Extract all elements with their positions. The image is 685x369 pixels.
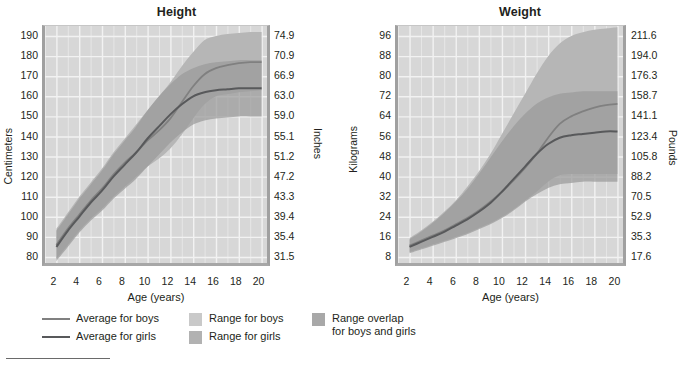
height-x-axis-title: Age (years)	[42, 291, 270, 303]
weight-data-series	[398, 26, 626, 266]
legend-swatch-range-boys-icon	[189, 313, 202, 326]
height-x-tick: 18	[224, 276, 248, 287]
height-y-axis-right-title: Inches	[312, 128, 324, 159]
weight-y-tick-left: 80	[351, 70, 391, 81]
weight-y-tick-right: 35.3	[631, 231, 675, 242]
height-plot-area	[42, 25, 270, 266]
height-y-tick-left: 160	[0, 90, 38, 101]
legend-label-range-overlap: Range overlap for boys and girls	[332, 312, 416, 338]
height-chart-title: Height	[0, 5, 343, 19]
weight-plot-wrap	[395, 25, 626, 266]
weight-y-tick-left: 8	[351, 251, 391, 262]
height-y-tick-left: 190	[0, 30, 38, 41]
weight-x-tick: 6	[441, 276, 465, 287]
height-x-tick: 16	[201, 276, 225, 287]
height-x-tick: 8	[110, 276, 134, 287]
weight-y-tick-right: 70.5	[631, 191, 675, 202]
height-y-axis-left-title: Centimeters	[2, 128, 14, 185]
legend-label-range-for-boys: Range for boys	[209, 312, 284, 325]
height-y-tick-left: 110	[0, 191, 38, 202]
height-x-tick: 10	[133, 276, 157, 287]
height-x-tick: 4	[64, 276, 88, 287]
weight-y-tick-right: 141.1	[631, 110, 675, 121]
height-plot-wrap	[42, 25, 270, 266]
height-y-tick-right: 43.3	[274, 191, 314, 202]
weight-x-tick: 2	[395, 276, 419, 287]
legend-item-average-for-boys: Average for boys	[42, 312, 159, 327]
height-y-tick-right: 70.9	[274, 50, 314, 61]
height-x-tick: 14	[178, 276, 202, 287]
weight-y-tick-left: 88	[351, 50, 391, 61]
legend-column-averages: Average for boys Average for girls	[42, 312, 159, 348]
legend-line-girls-icon	[42, 336, 70, 338]
weight-x-tick: 16	[556, 276, 580, 287]
weight-y-tick-right: 211.6	[631, 30, 675, 41]
weight-x-tick: 14	[533, 276, 557, 287]
height-y-tick-right: 51.2	[274, 151, 314, 162]
weight-y-tick-right: 158.7	[631, 90, 675, 101]
legend-swatch-range-girls-icon	[189, 331, 202, 344]
weight-y-tick-right: 17.6	[631, 251, 675, 262]
weight-x-tick: 18	[579, 276, 603, 287]
legend-column-ranges: Range for boys Range for girls	[189, 312, 284, 348]
height-x-tick: 2	[41, 276, 65, 287]
height-x-tick: 20	[247, 276, 271, 287]
weight-x-tick: 12	[510, 276, 534, 287]
height-data-series	[45, 26, 270, 266]
height-y-tick-right: 47.2	[274, 171, 314, 182]
weight-y-tick-left: 24	[351, 211, 391, 222]
weight-chart-panel: Weight 96888072645648403224168 211.6194.…	[343, 0, 685, 310]
weight-y-tick-right: 88.2	[631, 171, 675, 182]
height-y-tick-left: 150	[0, 110, 38, 121]
weight-x-axis-title: Age (years)	[395, 291, 626, 303]
height-y-tick-right: 39.4	[274, 211, 314, 222]
weight-y-axis-left-title: Kilograms	[347, 126, 359, 173]
weight-x-tick: 8	[464, 276, 488, 287]
weight-y-tick-left: 64	[351, 110, 391, 121]
weight-x-tick: 20	[602, 276, 626, 287]
legend-item-range-for-boys: Range for boys	[189, 312, 284, 327]
height-y-tick-left: 90	[0, 231, 38, 242]
height-x-tick: 12	[155, 276, 179, 287]
height-y-tick-left: 100	[0, 211, 38, 222]
legend-swatch-range-overlap-icon	[312, 313, 325, 326]
height-y-tick-left: 180	[0, 50, 38, 61]
weight-y-tick-right: 194.0	[631, 50, 675, 61]
chart-legend: Average for boys Average for girls Range…	[0, 312, 685, 357]
height-y-tick-right: 74.9	[274, 30, 314, 41]
height-chart-panel: Height 190180170160150140130120110100908…	[0, 0, 343, 310]
weight-y-tick-left: 96	[351, 30, 391, 41]
height-y-tick-right: 66.9	[274, 70, 314, 81]
height-y-tick-right: 55.1	[274, 131, 314, 142]
height-y-tick-right: 31.5	[274, 251, 314, 262]
height-y-tick-right: 63.0	[274, 90, 314, 101]
weight-y-tick-right: 52.9	[631, 211, 675, 222]
height-x-tick: 6	[87, 276, 111, 287]
height-y-tick-right: 59.0	[274, 110, 314, 121]
weight-y-tick-left: 72	[351, 90, 391, 101]
weight-y-axis-right-title: Pounds	[667, 130, 679, 166]
height-y-tick-right: 35.4	[274, 231, 314, 242]
weight-y-tick-right: 176.3	[631, 70, 675, 81]
weight-y-tick-left: 32	[351, 191, 391, 202]
legend-label-range-for-girls: Range for girls	[209, 330, 281, 343]
legend-column-overlap: Range overlap for boys and girls	[312, 312, 416, 341]
weight-y-tick-left: 16	[351, 231, 391, 242]
legend-label-average-for-girls: Average for girls	[76, 330, 156, 343]
legend-item-average-for-girls: Average for girls	[42, 330, 159, 345]
legend-item-range-overlap: Range overlap for boys and girls	[312, 312, 416, 338]
height-y-tick-left: 170	[0, 70, 38, 81]
weight-chart-title: Weight	[343, 5, 685, 19]
weight-plot-area	[395, 25, 626, 266]
legend-item-range-for-girls: Range for girls	[189, 330, 284, 345]
weight-x-tick: 4	[418, 276, 442, 287]
legend-label-average-for-boys: Average for boys	[76, 312, 159, 325]
height-y-tick-left: 80	[0, 251, 38, 262]
footer-rule	[6, 358, 110, 359]
legend-line-boys-icon	[42, 318, 70, 320]
weight-x-tick: 10	[487, 276, 511, 287]
